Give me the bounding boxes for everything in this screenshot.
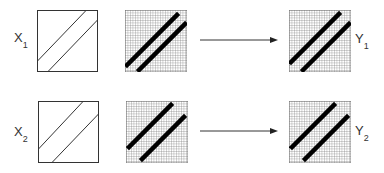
output-label-letter: Y xyxy=(355,123,364,138)
input-label-letter: X xyxy=(14,124,23,139)
output-grid-y1 xyxy=(289,10,351,72)
input-label-x1: X1 xyxy=(14,30,28,48)
arrow-row1 xyxy=(198,34,280,46)
output-label-subscript: 2 xyxy=(364,133,369,143)
discretized-grid-x1 xyxy=(125,10,187,72)
output-grid-y2 xyxy=(289,101,351,163)
input-label-subscript: 2 xyxy=(23,134,28,144)
input-label-subscript: 1 xyxy=(23,40,28,50)
continuous-input-box-x2 xyxy=(38,101,99,163)
continuous-input-box-x1 xyxy=(37,10,98,72)
input-label-x2: X2 xyxy=(14,124,28,142)
output-label-letter: Y xyxy=(355,31,364,46)
output-label-y2: Y2 xyxy=(355,123,369,141)
discretized-grid-x2 xyxy=(126,101,188,163)
input-label-letter: X xyxy=(14,30,23,45)
output-label-y1: Y1 xyxy=(355,31,369,49)
output-label-subscript: 1 xyxy=(364,41,369,51)
arrow-row2 xyxy=(198,125,280,137)
